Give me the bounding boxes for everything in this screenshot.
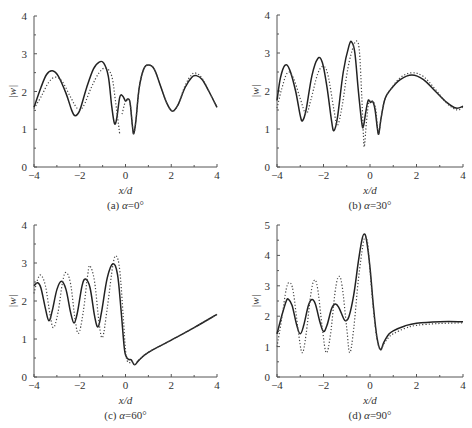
y-tick-label: 4 <box>265 9 271 21</box>
x-tick-label: 4 <box>460 379 466 391</box>
x-tick-label: −2 <box>318 379 330 391</box>
y-tick-label: 1 <box>265 341 271 353</box>
x-tick-label: 0 <box>123 169 129 181</box>
y-tick-label: 2 <box>265 85 271 97</box>
x-tick-label: 4 <box>214 379 220 391</box>
y-axis-label: |w| <box>6 85 18 98</box>
y-tick-label: 3 <box>265 280 271 292</box>
y-tick-label: 0 <box>265 161 271 173</box>
y-tick-label: 5 <box>265 219 271 231</box>
y-tick-label: 2 <box>22 86 28 98</box>
figure: −4−202401234x/d|w|(a) α=0° −4−202401234x… <box>0 0 472 428</box>
y-tick-label: 4 <box>265 249 271 261</box>
x-tick-label: 4 <box>214 169 220 181</box>
y-tick-label: 0 <box>22 371 28 383</box>
y-axis-label: |w| <box>6 294 18 307</box>
x-tick-label: 0 <box>123 379 129 391</box>
series-dotted <box>34 256 217 365</box>
y-tick-label: 2 <box>265 310 271 322</box>
x-tick-label: −4 <box>271 379 283 391</box>
x-tick-label: 0 <box>367 169 373 181</box>
panel-d: −4−2024012345x/d|w|(d) α=90° <box>249 219 466 422</box>
x-tick-label: −4 <box>271 169 283 181</box>
series-dotted <box>277 237 463 353</box>
y-axis-label: |w| <box>249 84 261 97</box>
y-tick-label: 1 <box>265 123 271 135</box>
panel-c: −4−202401234x/d|w|(c) α=60° <box>6 219 220 422</box>
y-tick-label: 3 <box>265 47 271 59</box>
series-dotted <box>277 41 463 147</box>
series-solid <box>34 61 217 134</box>
x-tick-label: 2 <box>169 169 175 181</box>
y-tick-label: 4 <box>22 10 28 22</box>
series-solid <box>277 41 463 134</box>
y-axis-label: |w| <box>249 294 261 307</box>
x-tick-label: −2 <box>74 379 86 391</box>
x-axis-label: x/d <box>118 184 133 196</box>
x-tick-label: 2 <box>414 169 420 181</box>
x-tick-label: −4 <box>28 379 40 391</box>
series-solid <box>34 264 217 365</box>
panel-caption: (a) α=0° <box>107 199 144 212</box>
panel-b: −4−202401234x/d|w|(b) α=30° <box>249 9 466 212</box>
series-dotted <box>34 68 120 135</box>
x-tick-label: −4 <box>28 169 40 181</box>
panel-caption: (b) α=30° <box>349 199 392 212</box>
y-tick-label: 1 <box>22 123 28 135</box>
x-tick-label: −2 <box>318 169 330 181</box>
y-tick-label: 3 <box>22 48 28 60</box>
panel-caption: (c) α=60° <box>104 409 146 422</box>
y-tick-label: 1 <box>22 333 28 345</box>
x-axis-label: x/d <box>362 184 377 196</box>
y-tick-label: 3 <box>22 257 28 269</box>
x-tick-label: −2 <box>74 169 86 181</box>
y-tick-label: 0 <box>265 371 271 383</box>
x-tick-label: 2 <box>414 379 420 391</box>
series-solid <box>277 234 463 350</box>
panel-caption: (d) α=90° <box>349 409 392 422</box>
x-tick-label: 4 <box>460 169 466 181</box>
y-tick-label: 0 <box>22 161 28 173</box>
x-axis-label: x/d <box>118 394 133 406</box>
x-axis-label: x/d <box>362 394 377 406</box>
y-tick-label: 2 <box>22 295 28 307</box>
x-tick-label: 0 <box>367 379 373 391</box>
panel-a: −4−202401234x/d|w|(a) α=0° <box>6 10 220 212</box>
x-tick-label: 2 <box>169 379 175 391</box>
y-tick-label: 4 <box>22 219 28 231</box>
